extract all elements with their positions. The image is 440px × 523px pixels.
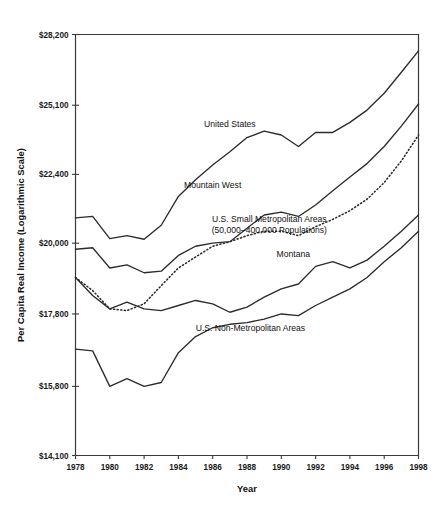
x-tick-label: 1992 xyxy=(306,463,325,472)
x-tick-label: 1982 xyxy=(135,463,154,472)
y-tick-label: $25,100 xyxy=(39,101,69,110)
x-tick-label: 1986 xyxy=(204,463,223,472)
income-line-chart: $14,100$15,800$17,800$20,000$22,400$25,1… xyxy=(0,0,440,523)
y-axis-ticks: $14,100$15,800$17,800$20,000$22,400$25,1… xyxy=(39,31,79,461)
y-axis-title: Per Capita Real Income (Logarithmic Scal… xyxy=(15,148,26,342)
y-tick-label: $22,400 xyxy=(39,170,69,179)
y-tick-label: $15,800 xyxy=(39,382,69,391)
plot-frame xyxy=(76,35,419,456)
x-tick-label: 1978 xyxy=(66,463,85,472)
series-sublabel-u-s-small-metropolitan-areas: (50,000–400,000 Populations) xyxy=(212,225,327,235)
x-tick-label: 1980 xyxy=(101,463,120,472)
series-line-united-states xyxy=(76,51,419,239)
x-tick-label: 1994 xyxy=(341,463,360,472)
series-label-united-states: United States xyxy=(204,119,256,129)
x-tick-label: 1990 xyxy=(272,463,291,472)
series-label-u-s-small-metropolitan-areas: U.S. Small Metropolitan Areas xyxy=(212,214,327,224)
series-label-montana: Montana xyxy=(277,249,311,259)
y-tick-label: $20,000 xyxy=(39,239,69,248)
series-line-u-s-non-metropolitan-areas xyxy=(76,231,419,386)
series-labels-group: United StatesMountain WestU.S. Small Met… xyxy=(184,119,327,333)
y-tick-label: $14,100 xyxy=(39,452,69,461)
x-tick-label: 1998 xyxy=(409,463,428,472)
x-tick-label: 1996 xyxy=(375,463,394,472)
x-tick-label: 1984 xyxy=(169,463,188,472)
x-tick-label: 1988 xyxy=(238,463,257,472)
chart-container: $14,100$15,800$17,800$20,000$22,400$25,1… xyxy=(0,0,440,523)
axis-frame xyxy=(76,35,419,456)
y-tick-label: $28,200 xyxy=(39,31,69,40)
series-label-mountain-west: Mountain West xyxy=(184,180,242,190)
x-axis-ticks: 1978198019821984198619881990199219941996… xyxy=(66,456,428,472)
series-label-u-s-non-metropolitan-areas: U.S. Non-Metropolitan Areas xyxy=(196,323,305,333)
y-tick-label: $17,800 xyxy=(39,310,69,319)
x-axis-title: Year xyxy=(237,483,257,494)
